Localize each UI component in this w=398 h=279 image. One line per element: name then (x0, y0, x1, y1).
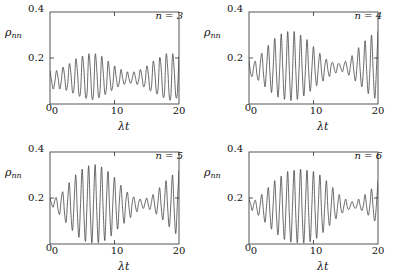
y-tick-label-2: 0.4 (14, 143, 44, 154)
y-tick-label-2: 0.4 (14, 3, 44, 14)
y-axis-label: ρnn (5, 26, 21, 40)
x-tick-label-2: 20 (366, 245, 390, 256)
x-tick-label-2: 20 (366, 105, 390, 116)
x-tick-label-0: 0 (43, 245, 67, 256)
x-tick-label-0: 0 (43, 105, 67, 116)
panel-label-n3: n = 3 (155, 10, 183, 21)
y-axis-label: ρnn (204, 166, 220, 180)
chart-panel-n6: ρnn λt 0 0.2 0.4 0 10 20 n = 6 (199, 140, 398, 279)
y-tick-label-2: 0.4 (213, 143, 243, 154)
y-tick-label-1: 0.2 (14, 52, 44, 63)
chart-panel-n3: ρnn λt 0 0.2 0.4 0 10 20 n = 3 (0, 0, 199, 139)
panel-label-n4: n = 4 (354, 10, 382, 21)
figure-panel-grid: ρnn λt 0 0.2 0.4 0 10 20 n = 3 ρnn λt 0 … (0, 0, 398, 279)
y-tick-label-1: 0.2 (213, 192, 243, 203)
chart-panel-n4: ρnn λt 0 0.2 0.4 0 10 20 n = 4 (199, 0, 398, 139)
chart-panel-n5: ρnn λt 0 0.2 0.4 0 10 20 n = 5 (0, 140, 199, 279)
x-tick-label-0: 0 (242, 245, 266, 256)
y-axis-label: ρnn (204, 26, 220, 40)
y-tick-label-1: 0.2 (14, 192, 44, 203)
x-tick-label-0: 0 (242, 105, 266, 116)
x-tick-label-1: 10 (304, 245, 328, 256)
panel-label-n6: n = 6 (354, 150, 382, 161)
x-tick-label-1: 10 (304, 105, 328, 116)
x-tick-label-2: 20 (167, 245, 191, 256)
y-tick-label-2: 0.4 (213, 3, 243, 14)
x-tick-label-1: 10 (105, 105, 129, 116)
x-axis-label: λt (317, 120, 328, 133)
y-axis-label: ρnn (5, 166, 21, 180)
x-tick-label-1: 10 (105, 245, 129, 256)
panel-label-n5: n = 5 (155, 150, 183, 161)
x-axis-label: λt (118, 120, 129, 133)
y-tick-label-1: 0.2 (213, 52, 243, 63)
x-axis-label: λt (118, 260, 129, 273)
x-axis-label: λt (317, 260, 328, 273)
x-tick-label-2: 20 (167, 105, 191, 116)
